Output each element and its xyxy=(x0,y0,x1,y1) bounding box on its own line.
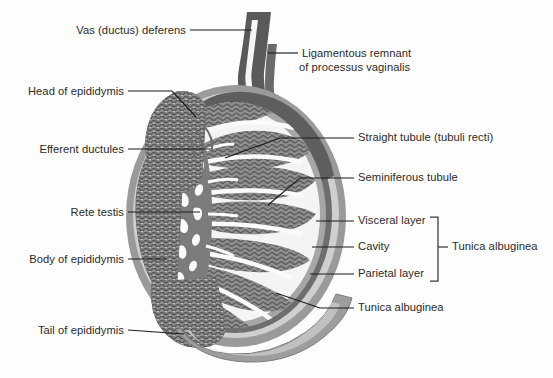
label-tunica-albuginea-group: Tunica albuginea xyxy=(452,240,538,252)
label-cavity: Cavity xyxy=(358,240,390,252)
label-tail-of-epididymis: Tail of epididymis xyxy=(38,324,124,336)
label-tunica-albuginea-pointer: Tunica albuginea xyxy=(358,301,444,313)
label-head-of-epididymis: Head of epididymis xyxy=(28,85,124,97)
label-rete-testis: Rete testis xyxy=(71,206,125,218)
label-body-of-epididymis: Body of epididymis xyxy=(29,253,124,265)
testis-diagram-figure: Vas (ductus) deferens Head of epididymis… xyxy=(0,0,553,378)
label-ligamentous-remnant-line1: Ligamentous remnant xyxy=(302,47,412,59)
label-straight-tubule: Straight tubule (tubuli recti) xyxy=(358,131,493,143)
label-efferent-ductules: Efferent ductules xyxy=(39,143,124,155)
label-ligamentous-remnant-line2: of processus vaginalis xyxy=(299,61,411,73)
label-visceral-layer: Visceral layer xyxy=(358,214,426,226)
label-parietal-layer: Parietal layer xyxy=(358,267,424,279)
label-vas-deferens: Vas (ductus) deferens xyxy=(76,24,186,36)
label-seminiferous-tubule: Seminiferous tubule xyxy=(358,171,458,183)
